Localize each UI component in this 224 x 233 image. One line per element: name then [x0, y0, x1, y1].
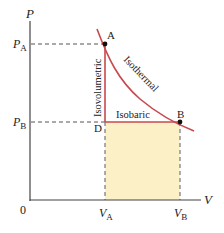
y-axis-label: P [25, 6, 34, 21]
isobaric-label: Isobaric [116, 109, 150, 120]
isovolumetric-label: Isovolumetric [92, 58, 103, 117]
pv-diagram-svg: P V 0 PA PB VA VB A B D Isovolumetric Is… [0, 0, 224, 233]
pv-diagram: P V 0 PA PB VA VB A B D Isovolumetric Is… [0, 0, 224, 233]
work-area-fill [105, 122, 180, 200]
origin-label: 0 [20, 203, 26, 217]
point-a-dot [103, 42, 108, 47]
point-b-dot [178, 120, 183, 125]
point-b-label: B [177, 108, 184, 120]
isothermal-label: Isothermal [122, 54, 161, 94]
pb-tick-label: PB [12, 115, 26, 131]
vb-tick-label: VB [174, 206, 187, 222]
point-a-label: A [107, 29, 115, 41]
pa-tick-label: PA [12, 37, 27, 53]
va-tick-label: VA [99, 206, 113, 222]
x-axis-label: V [204, 192, 214, 207]
point-d-label: D [94, 122, 102, 134]
